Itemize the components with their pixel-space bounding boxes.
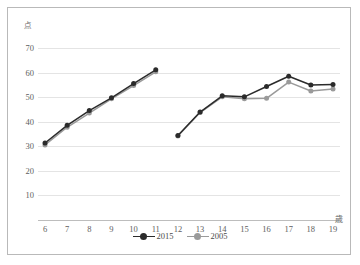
marker-2015-age-6 <box>43 140 48 145</box>
marker-2015-age-10 <box>131 81 136 86</box>
y-tick-label-20: 20 <box>11 167 34 176</box>
series-lines-group <box>38 36 340 220</box>
marker-2015-age-8 <box>87 108 92 113</box>
marker-2005-age-17 <box>286 80 291 85</box>
marker-2015-age-15 <box>242 94 247 99</box>
y-tick-label-40: 40 <box>11 118 34 127</box>
plot-area: 10203040506070 678910111213141516171819 <box>38 36 340 220</box>
marker-2015-age-19 <box>331 82 336 87</box>
marker-2015-age-16 <box>264 84 269 89</box>
x-axis-line <box>38 220 340 221</box>
marker-2015-age-17 <box>286 74 291 79</box>
y-tick-label-70: 70 <box>11 44 34 53</box>
marker-2015-age-14 <box>220 93 225 98</box>
chart-figure: 点 10203040506070 67891011121314151617181… <box>0 0 360 265</box>
marker-2015-age-18 <box>308 83 313 88</box>
y-tick-label-30: 30 <box>11 142 34 151</box>
marker-2005-age-19 <box>331 86 336 91</box>
legend-marker-2005-icon <box>187 232 209 240</box>
legend-marker-2015-icon <box>133 232 155 240</box>
series-2015 <box>43 67 336 145</box>
y-tick-label-10: 10 <box>11 191 34 200</box>
marker-2015-age-11 <box>153 67 158 72</box>
y-axis-unit-label: 点 <box>24 22 31 30</box>
marker-2015-age-9 <box>109 95 114 100</box>
x-axis-unit-label: 歳 <box>335 216 343 224</box>
marker-2005-age-16 <box>264 96 269 101</box>
marker-2005-age-18 <box>308 88 313 93</box>
chart-frame: 点 10203040506070 67891011121314151617181… <box>7 7 351 255</box>
y-tick-label-50: 50 <box>11 93 34 102</box>
series-2005 <box>43 69 336 147</box>
legend-entry-2015[interactable]: 2015 <box>133 232 174 241</box>
line-2005-segment-1 <box>45 72 156 145</box>
chart-legend: 20152005 <box>8 232 352 241</box>
legend-entry-2005[interactable]: 2005 <box>187 232 228 241</box>
legend-label-2005: 2005 <box>211 232 228 241</box>
y-tick-label-60: 60 <box>11 69 34 78</box>
marker-2015-age-13 <box>198 110 203 115</box>
legend-label-2015: 2015 <box>157 232 174 241</box>
marker-2015-age-12 <box>175 133 180 138</box>
marker-2015-age-7 <box>65 123 70 128</box>
